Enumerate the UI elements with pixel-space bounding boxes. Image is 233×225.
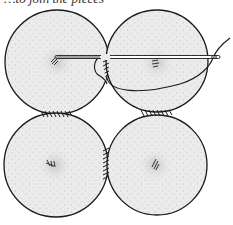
yoyo-diagram (0, 0, 233, 225)
yoyo-bottom-right (107, 115, 207, 215)
yoyo-top-right (106, 10, 208, 112)
yoyo-top-left (5, 10, 109, 114)
yoyo-bottom-left (4, 113, 108, 217)
